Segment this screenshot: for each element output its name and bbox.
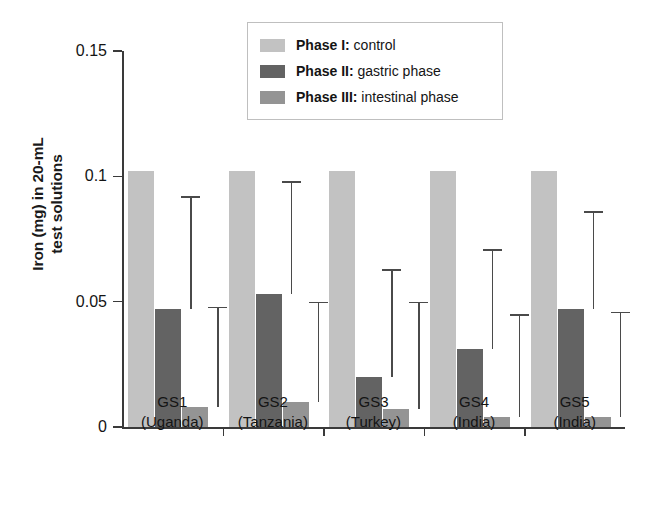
legend-label-1: Phase I: control xyxy=(296,37,396,53)
legend-swatch-1 xyxy=(260,39,285,52)
legend-label-3: Phase III: intestinal phase xyxy=(296,89,459,105)
errorbar-GS2-phase2 xyxy=(291,181,292,294)
y-axis-title-line-2: test solutions xyxy=(48,154,67,253)
legend-label-2: Phase II: gastric phase xyxy=(296,63,441,79)
x-label-country: (Turkey) xyxy=(323,412,424,432)
errorbar-GS1-phase2 xyxy=(190,196,191,309)
errorbar-GS2-phase3 xyxy=(318,302,319,402)
legend-swatch-3 xyxy=(260,91,285,104)
errorbar-GS5-phase2 xyxy=(593,211,594,309)
y-axis-title-line-1: Iron (mg) in 20-mL xyxy=(29,137,48,270)
x-label-name: GS2 xyxy=(258,393,288,410)
x-label-GS1: GS1(Uganda) xyxy=(122,392,223,431)
x-label-country: (Uganda) xyxy=(122,412,223,432)
x-label-name: GS4 xyxy=(459,393,489,410)
y-tick-label-1: 0.05 xyxy=(76,293,107,311)
legend-item-3: Phase III: intestinal phase xyxy=(260,84,492,110)
bar-group-GS5 xyxy=(524,51,625,427)
errorbar-cap-GS3-phase2 xyxy=(382,269,401,271)
legend-item-2: Phase II: gastric phase xyxy=(260,58,492,84)
x-label-name: GS1 xyxy=(157,393,187,410)
errorbar-cap-GS4-phase2 xyxy=(483,249,502,251)
errorbar-cap-GS5-phase3 xyxy=(611,312,630,314)
y-tick-2: 0.1 xyxy=(113,176,122,178)
bar-group-GS1 xyxy=(122,51,223,427)
x-label-country: (India) xyxy=(524,412,625,432)
x-label-GS3: GS3(Turkey) xyxy=(323,392,424,431)
bar-GS3-phase1 xyxy=(329,171,355,427)
x-label-GS5: GS5(India) xyxy=(524,392,625,431)
chart-legend: Phase I: controlPhase II: gastric phaseP… xyxy=(247,22,503,120)
y-tick-0: 0 xyxy=(113,426,122,428)
x-label-GS4: GS4(India) xyxy=(424,392,525,431)
x-label-country: (Tanzania) xyxy=(223,412,324,432)
y-tick-1: 0.05 xyxy=(113,301,122,303)
y-tick-label-2: 0.1 xyxy=(85,167,107,185)
bar-GS1-phase1 xyxy=(128,171,154,427)
legend-swatch-2 xyxy=(260,65,285,78)
errorbar-GS4-phase2 xyxy=(492,249,493,349)
errorbar-GS3-phase2 xyxy=(391,269,392,377)
chart-figure: Iron (mg) in 20-mL test solutions 00.050… xyxy=(0,0,663,505)
y-tick-3: 0.15 xyxy=(113,50,122,52)
errorbar-cap-GS1-phase2 xyxy=(181,196,200,198)
errorbar-cap-GS2-phase2 xyxy=(282,181,301,183)
x-label-country: (India) xyxy=(424,412,525,432)
x-label-GS2: GS2(Tanzania) xyxy=(223,392,324,431)
bar-GS5-phase1 xyxy=(531,171,557,427)
y-tick-label-0: 0 xyxy=(98,418,107,436)
x-label-name: GS3 xyxy=(358,393,388,410)
bar-GS4-phase1 xyxy=(430,171,456,427)
legend-item-1: Phase I: control xyxy=(260,32,492,58)
errorbar-cap-GS5-phase2 xyxy=(584,211,603,213)
x-label-name: GS5 xyxy=(560,393,590,410)
bar-GS2-phase1 xyxy=(229,171,255,427)
y-tick-label-3: 0.15 xyxy=(76,42,107,60)
y-axis-title: Iron (mg) in 20-mL test solutions xyxy=(18,74,78,334)
